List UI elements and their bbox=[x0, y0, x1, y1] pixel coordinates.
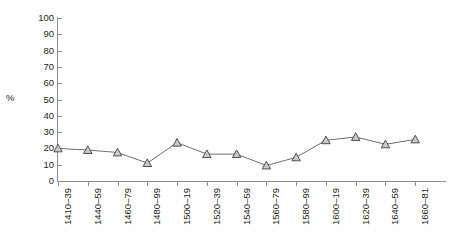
series-marker bbox=[143, 159, 151, 167]
series-marker bbox=[411, 135, 419, 143]
series-marker bbox=[351, 133, 359, 141]
series-marker bbox=[173, 139, 181, 147]
series-marker bbox=[292, 153, 300, 161]
data-series-line bbox=[0, 0, 461, 244]
series-marker bbox=[54, 144, 62, 152]
chart-container: % 0102030405060708090100 1410–391440–591… bbox=[0, 0, 461, 244]
